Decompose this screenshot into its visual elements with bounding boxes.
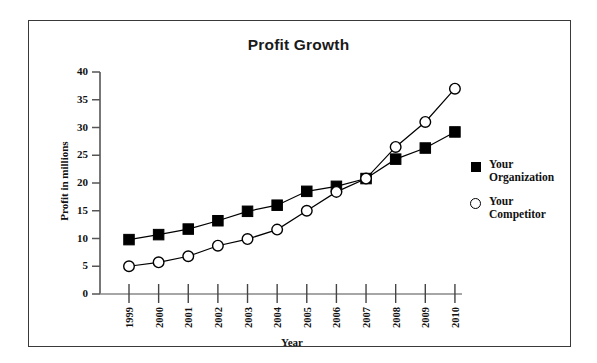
y-tick-marks: [92, 72, 100, 294]
data-point-circle: [390, 142, 401, 153]
data-point-circle: [301, 205, 312, 216]
series-line: [129, 89, 455, 267]
data-point-square: [153, 229, 164, 240]
y-tick-label: 25: [62, 148, 88, 160]
data-point-circle: [124, 261, 135, 272]
data-point-square: [302, 186, 313, 197]
data-point-square: [450, 127, 461, 138]
y-tick-label: 0: [62, 287, 88, 299]
y-tick-label: 10: [62, 232, 88, 244]
x-tick-label: 2005: [301, 301, 312, 335]
legend-label-line1: Your: [489, 158, 554, 171]
data-point-circle: [213, 240, 224, 251]
x-tick-label: 2007: [361, 301, 372, 335]
data-point-circle: [420, 117, 431, 128]
data-point-circle: [331, 187, 342, 198]
x-tick-label: 2003: [242, 301, 253, 335]
data-series-group: [124, 83, 461, 271]
data-point-square: [124, 234, 135, 245]
x-tick-label: 2000: [153, 301, 164, 335]
y-tick-label: 40: [62, 65, 88, 77]
y-tick-label: 30: [62, 121, 88, 133]
filled-square-icon: [470, 158, 484, 178]
data-point-circle: [153, 257, 164, 268]
data-point-square: [272, 200, 283, 211]
series-your-competitor: [124, 83, 461, 271]
x-tick-label: 2008: [390, 301, 401, 335]
legend-label-line1: Your: [489, 195, 546, 208]
series-line: [129, 132, 455, 240]
y-tick-label: 15: [62, 204, 88, 216]
y-tick-label: 5: [62, 259, 88, 271]
legend-item-your-organization: Your Organization: [470, 158, 575, 183]
y-tick-label: 35: [62, 93, 88, 105]
data-point-square: [183, 224, 194, 235]
data-point-circle: [242, 234, 253, 245]
legend-label-line2: Organization: [489, 171, 554, 184]
data-point-square: [242, 206, 253, 217]
data-point-square: [420, 143, 431, 154]
legend-label-your-organization: Your Organization: [489, 158, 554, 183]
legend-label-line2: Competitor: [489, 208, 546, 221]
data-point-circle: [183, 251, 194, 262]
x-tick-label: 2004: [272, 301, 283, 335]
chart-legend: Your Organization Your Competitor: [470, 158, 575, 232]
data-point-square: [390, 154, 401, 165]
open-circle-icon: [470, 195, 484, 215]
series-your-organization: [124, 127, 460, 245]
x-tick-label: 1999: [124, 301, 135, 335]
legend-label-your-competitor: Your Competitor: [489, 195, 546, 220]
chart-figure: Profit Growth Profit in millions Year 05…: [0, 0, 597, 363]
x-tick-label: 2010: [449, 301, 460, 335]
x-tick-label: 2009: [420, 301, 431, 335]
x-tick-label: 2006: [331, 301, 342, 335]
data-point-circle: [272, 224, 283, 235]
x-tick-label: 2002: [212, 301, 223, 335]
legend-item-your-competitor: Your Competitor: [470, 195, 575, 220]
x-tick-label: 2001: [183, 301, 194, 335]
data-point-square: [213, 215, 224, 226]
data-point-circle: [361, 173, 372, 184]
data-point-circle: [450, 83, 461, 94]
y-tick-label: 20: [62, 176, 88, 188]
